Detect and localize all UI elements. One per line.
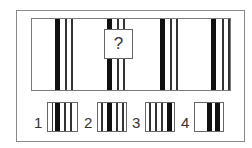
option-4[interactable]: [194, 102, 224, 132]
thin-bar: [116, 103, 118, 131]
thick-bar: [215, 103, 220, 131]
thin-bar: [155, 103, 157, 131]
thin-bar: [70, 103, 72, 131]
thin-bar: [149, 103, 151, 131]
thin-bar: [52, 103, 53, 131]
thin-bar: [161, 103, 163, 131]
thin-bar: [71, 19, 73, 90]
thick-bar: [55, 19, 60, 90]
thin-bar: [176, 19, 178, 90]
question-mark-box: ?: [104, 29, 133, 59]
question-mark: ?: [114, 34, 123, 54]
thin-bar: [65, 19, 67, 90]
option-2[interactable]: [97, 102, 127, 132]
thick-bar: [160, 19, 165, 90]
thick-bar: [211, 19, 216, 90]
option-2-label: 2: [84, 115, 92, 131]
thick-bar: [207, 103, 212, 131]
option-3-label: 3: [132, 115, 140, 131]
thin-bar: [228, 19, 230, 90]
thin-bar: [222, 19, 224, 90]
thick-bar: [107, 103, 112, 131]
thick-bar: [167, 103, 172, 131]
thin-bar: [64, 103, 66, 131]
option-1-label: 1: [34, 115, 42, 131]
thin-bar: [101, 103, 103, 131]
option-4-label: 4: [181, 115, 189, 131]
option-1[interactable]: [47, 102, 78, 132]
thin-bar: [122, 103, 124, 131]
thin-bar: [170, 19, 172, 90]
thick-bar: [55, 103, 60, 131]
option-3[interactable]: [145, 102, 175, 132]
